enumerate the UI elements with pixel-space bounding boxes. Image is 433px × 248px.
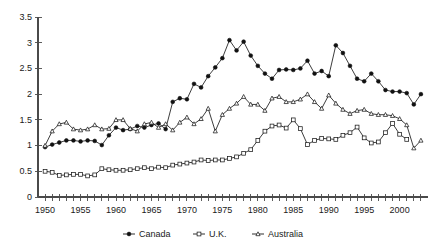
data-point — [390, 114, 394, 118]
data-point — [291, 118, 295, 122]
data-point — [419, 92, 423, 96]
data-point — [93, 139, 97, 143]
data-point — [164, 127, 168, 131]
data-point — [57, 174, 61, 178]
data-point — [220, 158, 224, 162]
x-tick-label: 1975 — [212, 205, 232, 215]
y-tick-label: 2.5 — [19, 63, 32, 73]
data-point — [114, 118, 118, 122]
data-point — [242, 95, 246, 99]
data-point — [291, 100, 295, 104]
data-point — [263, 72, 267, 76]
line-chart: 00.511.522.533.5 19501955196019651970197… — [0, 0, 433, 248]
data-point — [419, 138, 423, 142]
data-point — [156, 125, 160, 129]
data-point — [334, 138, 338, 142]
series-path — [45, 120, 407, 176]
data-point — [327, 137, 331, 141]
data-point — [213, 129, 217, 133]
x-tick-label: 1960 — [106, 205, 126, 215]
data-point — [298, 67, 302, 71]
data-point — [383, 113, 387, 117]
legend-item-canada[interactable]: Canada — [123, 229, 171, 239]
legend-marker — [256, 232, 260, 236]
legend-label: Australia — [268, 229, 303, 239]
data-point — [227, 106, 231, 110]
data-point — [220, 56, 224, 60]
data-point — [277, 68, 281, 72]
data-point — [142, 122, 146, 126]
data-point — [86, 174, 90, 178]
legend-label: U.K. — [209, 229, 227, 239]
data-point — [348, 111, 352, 115]
data-point — [277, 95, 281, 99]
data-point — [320, 136, 324, 140]
x-tick-label: 1985 — [283, 205, 303, 215]
data-point — [284, 68, 288, 72]
data-point — [114, 168, 118, 172]
y-tick-label: 1.5 — [19, 115, 32, 125]
data-point — [171, 100, 175, 104]
data-point — [185, 97, 189, 101]
data-point — [206, 74, 210, 78]
data-point — [100, 167, 104, 171]
data-point — [128, 168, 132, 172]
data-point — [284, 126, 288, 130]
data-point — [256, 64, 260, 68]
data-point — [327, 93, 331, 97]
x-axis: 1950195519601965197019751980198519901995… — [35, 194, 428, 216]
chart-canvas: 00.511.522.533.5 19501955196019651970197… — [0, 0, 433, 248]
data-point — [412, 103, 416, 107]
data-point — [242, 151, 246, 155]
data-point — [249, 148, 253, 152]
data-point — [235, 155, 239, 159]
data-point — [206, 106, 210, 110]
data-point — [50, 170, 54, 174]
data-point — [57, 122, 61, 126]
data-point — [376, 140, 380, 144]
data-point — [64, 139, 68, 143]
data-point — [334, 43, 338, 47]
data-point — [327, 74, 331, 78]
x-tick-label: 1955 — [71, 205, 91, 215]
data-point — [384, 131, 388, 135]
x-tick-label: 2000 — [390, 205, 410, 215]
data-point — [78, 128, 82, 132]
data-point — [107, 133, 111, 137]
data-point — [298, 127, 302, 131]
data-point — [135, 124, 139, 128]
legend-item-australia[interactable]: Australia — [252, 229, 303, 239]
data-point — [256, 139, 260, 143]
data-point — [270, 124, 274, 128]
data-point — [391, 90, 395, 94]
data-point — [50, 143, 54, 147]
data-point — [178, 96, 182, 100]
data-point — [213, 66, 217, 70]
legend-marker — [127, 232, 131, 236]
data-point — [72, 139, 76, 143]
data-point — [150, 167, 154, 171]
data-point — [64, 173, 68, 177]
data-point — [228, 157, 232, 161]
data-point — [362, 107, 366, 111]
data-point — [391, 122, 395, 126]
data-point — [369, 141, 373, 145]
data-point — [362, 136, 366, 140]
data-point — [79, 140, 83, 144]
data-point — [135, 167, 139, 171]
data-point — [341, 133, 345, 137]
data-point — [228, 38, 232, 42]
legend-item-uk[interactable]: U.K. — [193, 229, 227, 239]
data-point — [405, 91, 409, 95]
data-point — [192, 82, 196, 86]
data-point — [86, 127, 90, 131]
data-point — [171, 163, 175, 167]
series-layer — [43, 38, 423, 178]
data-point — [355, 125, 359, 129]
data-point — [376, 79, 380, 83]
data-point — [185, 115, 189, 119]
data-point — [199, 86, 203, 90]
data-point — [43, 169, 47, 173]
data-point — [306, 143, 310, 147]
data-point — [263, 129, 267, 133]
